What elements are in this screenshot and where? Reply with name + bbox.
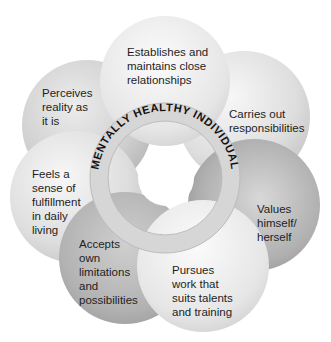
- diagram-canvas: MENTALLY HEALTHY INDIVIDUAL Establishes …: [0, 0, 331, 342]
- center-hole: [138, 150, 194, 206]
